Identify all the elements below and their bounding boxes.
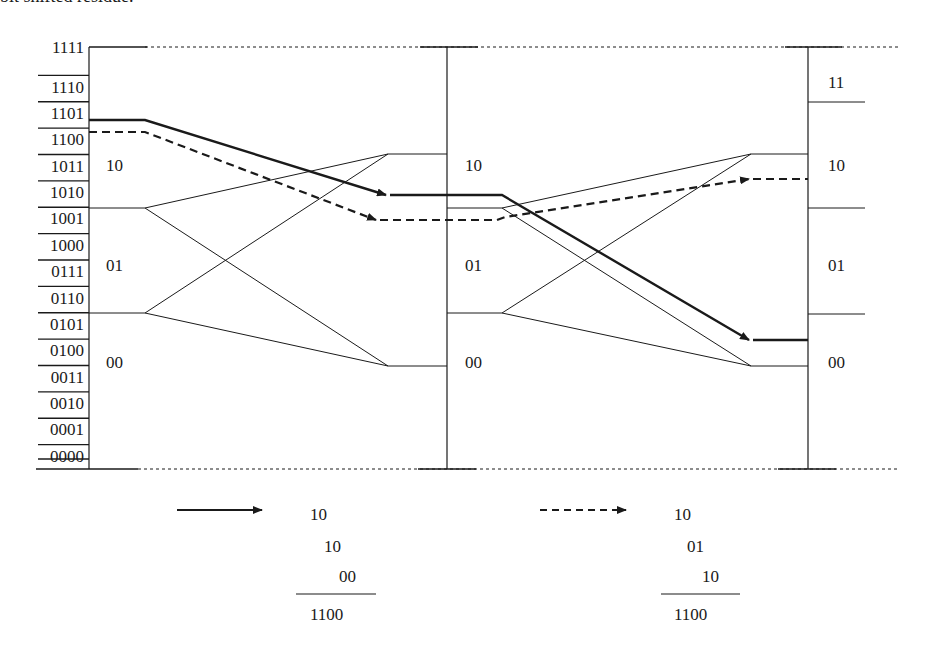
- dashed-conversion-path: [89, 132, 808, 220]
- stage1-transfer-lines: [89, 154, 447, 366]
- dashed-digit-1: 10: [674, 506, 691, 523]
- full-scale-reference-lines: [138, 47, 900, 469]
- axis-code-label: 0101: [50, 315, 84, 334]
- dashed-sum: 1100: [674, 606, 707, 623]
- region-label: 01: [465, 257, 482, 274]
- axis-code-label: 0110: [51, 289, 84, 308]
- region-label: 01: [828, 257, 845, 274]
- region-label: 11: [828, 74, 844, 91]
- axis-code-label: 1011: [51, 157, 84, 176]
- stage3-axis: [778, 47, 865, 469]
- axis-code-label: 0011: [51, 368, 84, 387]
- solid-conversion-path: [89, 120, 808, 340]
- axis-code-label: 1101: [51, 104, 84, 123]
- solid-sum: 1100: [310, 606, 343, 623]
- region-label: 00: [465, 354, 482, 371]
- solid-digit-1: 10: [310, 506, 327, 523]
- region-label: 10: [828, 157, 845, 174]
- axis-code-label: 1001: [50, 209, 84, 228]
- region-label: 10: [106, 157, 123, 174]
- dashed-digit-3: 10: [702, 568, 719, 585]
- axis-code-label: 1100: [51, 130, 84, 149]
- axis-code-label: 1111: [52, 38, 84, 57]
- region-label: 01: [106, 257, 123, 274]
- axis-code-label: 0010: [50, 394, 84, 413]
- region-label: 10: [465, 157, 482, 174]
- dashed-digit-2: 01: [687, 538, 704, 555]
- region-label: 00: [106, 354, 123, 371]
- axis-code-label: 1010: [50, 183, 84, 202]
- axis-code-label: 0111: [51, 262, 84, 281]
- solid-digit-3: 00: [339, 568, 356, 585]
- axis-code-label: 1110: [51, 78, 84, 97]
- stage2-transfer-lines: [447, 154, 808, 366]
- axis-code-label: 0100: [50, 341, 84, 360]
- axis-code-label: 1000: [50, 236, 84, 255]
- region-label: 00: [828, 354, 845, 371]
- axis-code-label: 0001: [50, 420, 84, 439]
- axis-code-label: 0000: [50, 447, 84, 466]
- solid-digit-2: 10: [324, 538, 341, 555]
- pipeline-adc-diagram: 1111111011011100101110101001100001110110…: [0, 0, 931, 653]
